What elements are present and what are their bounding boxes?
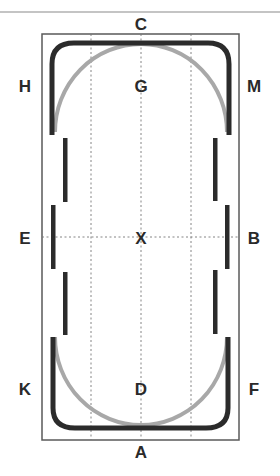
letter-g: G (134, 77, 147, 96)
letter-m: M (247, 77, 261, 96)
letter-x: X (135, 229, 147, 248)
letter-c: C (135, 15, 147, 34)
left-lower-segment (63, 272, 68, 335)
letter-b: B (248, 229, 260, 248)
left-upper-segment (63, 138, 68, 202)
letter-a: A (135, 443, 147, 462)
letter-k: K (19, 380, 32, 399)
right-mid-segment (225, 205, 230, 269)
arena-diagram: C A H E K M B F G X D (0, 0, 280, 476)
letter-f: F (249, 380, 259, 399)
right-upper-segment (213, 138, 218, 201)
letter-d: D (135, 380, 147, 399)
left-mid-segment (51, 205, 56, 269)
letter-h: H (19, 77, 31, 96)
right-lower-segment (213, 270, 218, 334)
letter-e: E (19, 229, 30, 248)
